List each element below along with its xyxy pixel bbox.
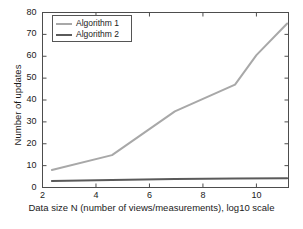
y-tick-label: 10 <box>21 161 37 170</box>
legend-swatch-algorithm-2 <box>56 34 72 36</box>
y-axis-label: Number of updates <box>13 53 23 157</box>
x-tick-label: 2 <box>36 191 50 200</box>
x-tick-label: 10 <box>249 191 263 200</box>
x-tick-label: 4 <box>89 191 103 200</box>
legend-label-algorithm-1: Algorithm 1 <box>76 19 119 28</box>
y-tick-label: 70 <box>21 29 37 38</box>
legend-item-algorithm-1: Algorithm 1 <box>56 18 131 29</box>
y-tick-label: 0 <box>21 183 37 192</box>
legend-swatch-algorithm-1 <box>56 23 72 25</box>
series-line-1 <box>52 23 287 170</box>
chart-legend: Algorithm 1 Algorithm 2 <box>52 15 132 42</box>
y-tick-label: 80 <box>21 8 37 17</box>
chart-figure: 01020304050607080246810 Number of update… <box>0 0 303 229</box>
x-axis-label: Data size N (number of views/measurement… <box>0 203 303 213</box>
legend-item-algorithm-2: Algorithm 2 <box>56 29 131 40</box>
data-series <box>52 23 287 181</box>
series-line-2 <box>52 178 287 181</box>
x-tick-label: 8 <box>196 191 210 200</box>
x-tick-label: 6 <box>142 191 156 200</box>
legend-label-algorithm-2: Algorithm 2 <box>76 30 119 39</box>
